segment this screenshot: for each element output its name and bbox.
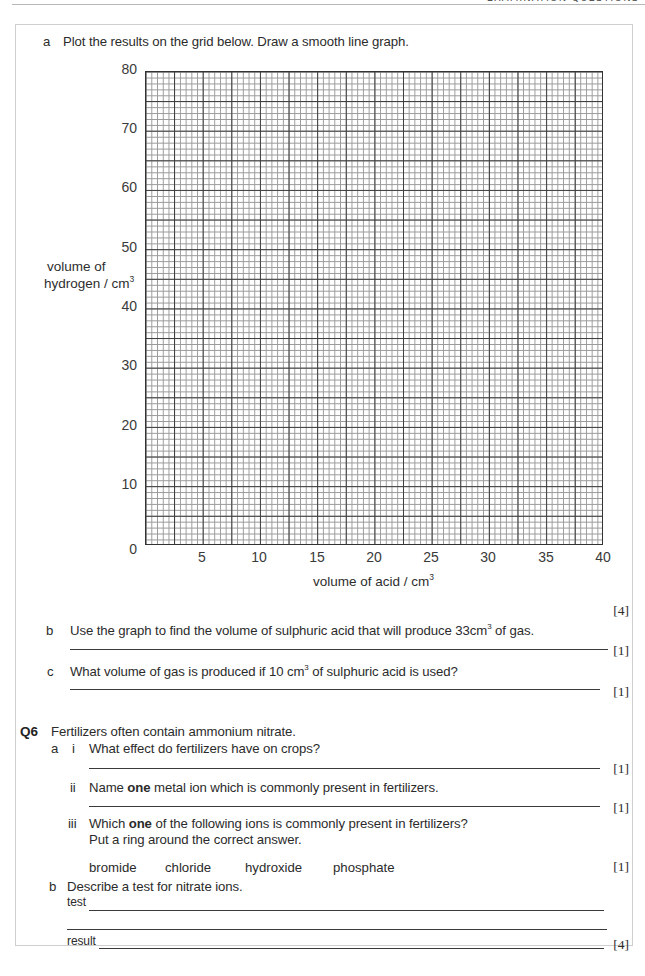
x-tick-40: 40: [588, 549, 618, 565]
q6aiii-numeral: iii: [68, 816, 77, 831]
x-tick-30: 30: [473, 549, 503, 565]
ion-option-hydroxide[interactable]: hydroxide: [245, 860, 302, 875]
q6aiii-text-start: Which: [89, 816, 129, 831]
x-tick-20: 20: [359, 549, 389, 565]
q6aii-marks: [1]: [613, 800, 629, 816]
header-rule: [12, 4, 645, 5]
y-tick-50: 50: [107, 239, 137, 255]
q5c-text: What volume of gas is produced if 10 cm3…: [70, 664, 458, 679]
running-title: EXAMINATION QUESTIONS: [487, 0, 639, 3]
x-axis-label-sup: 3: [429, 572, 434, 582]
q6b-test-label: test: [67, 895, 86, 909]
q5c-answer-line[interactable]: [70, 689, 600, 690]
q6-intro: Fertilizers often contain ammonium nitra…: [51, 724, 296, 739]
q6aiii-bold: one: [129, 816, 152, 831]
q6aii-answer-line[interactable]: [89, 806, 600, 807]
q6b-letter: b: [49, 879, 56, 894]
q6aiii-text-end: of the following ions is commonly presen…: [152, 816, 468, 831]
x-tick-10: 10: [244, 549, 274, 565]
y-tick-30: 30: [107, 357, 137, 373]
q5b-answer-line[interactable]: [70, 649, 608, 650]
q5c-marks: [1]: [613, 684, 629, 700]
q5a-text: Plot the results on the grid below. Draw…: [63, 34, 409, 49]
q6-label: Q6: [20, 724, 38, 739]
q5b-text-end: of gas.: [492, 623, 534, 638]
q6ai-text: What effect do fertilizers have on crops…: [89, 741, 320, 756]
x-tick-15: 15: [302, 549, 332, 565]
y-tick-70: 70: [107, 120, 137, 136]
q6b-test-line-2[interactable]: [67, 929, 607, 930]
ion-option-chloride[interactable]: chloride: [165, 860, 211, 875]
q6aii-bold: one: [127, 780, 150, 795]
q6aii-numeral: ii: [70, 780, 76, 795]
ion-option-bromide[interactable]: bromide: [89, 860, 137, 875]
origin-label: 0: [107, 541, 137, 557]
q6aii-text: Name one metal ion which is commonly pre…: [89, 780, 438, 795]
q6aiii-marks: [1]: [613, 859, 629, 875]
y-axis-label-sup: 3: [130, 274, 135, 284]
q6ai-answer-line[interactable]: [89, 768, 600, 769]
y-axis-label-line1: volume of: [47, 259, 106, 274]
x-axis-label: volume of acid / cm3: [313, 574, 434, 589]
q6b-test-line[interactable]: [89, 910, 604, 911]
q6b-marks: [4]: [613, 937, 629, 953]
y-axis-label-text: hydrogen / cm: [44, 276, 130, 291]
q6aiii-text: Which one of the following ions is commo…: [89, 816, 468, 831]
q6b-text: Describe a test for nitrate ions.: [67, 879, 243, 894]
q6aiii-instruction: Put a ring around the correct answer.: [89, 832, 302, 847]
q6ai-marks: [1]: [613, 761, 629, 777]
q6aii-text-start: Name: [89, 780, 127, 795]
ion-option-phosphate[interactable]: phosphate: [333, 860, 395, 875]
q6b-result-label: result: [67, 934, 96, 948]
y-tick-10: 10: [107, 476, 137, 492]
q5b-text: Use the graph to find the volume of sulp…: [70, 623, 534, 638]
q5c-text-main: What volume of gas is produced if 10 cm: [70, 664, 304, 679]
x-axis-label-text: volume of acid / cm: [313, 574, 429, 589]
q5a-letter: a: [43, 34, 50, 49]
q5b-marks: [1]: [613, 643, 629, 659]
y-tick-40: 40: [107, 298, 137, 314]
q6ai-numeral: i: [72, 741, 75, 756]
q6a-letter: a: [51, 741, 58, 756]
q6b-result-line[interactable]: [99, 948, 604, 949]
y-tick-60: 60: [107, 179, 137, 195]
x-tick-35: 35: [531, 549, 561, 565]
x-tick-25: 25: [416, 549, 446, 565]
q5c-letter: c: [47, 664, 54, 679]
x-tick-5: 5: [187, 549, 217, 565]
q5c-text-end: of sulphuric acid is used?: [309, 664, 458, 679]
q5b-letter: b: [46, 623, 53, 638]
graph-grid[interactable]: [145, 71, 603, 545]
y-tick-20: 20: [107, 417, 137, 433]
q5a-marks: [4]: [613, 603, 629, 619]
q6aii-text-end: metal ion which is commonly present in f…: [151, 780, 439, 795]
y-tick-80: 80: [107, 61, 137, 77]
y-axis-label-line2: hydrogen / cm3: [44, 276, 134, 291]
q5b-text-main: Use the graph to find the volume of sulp…: [70, 623, 487, 638]
